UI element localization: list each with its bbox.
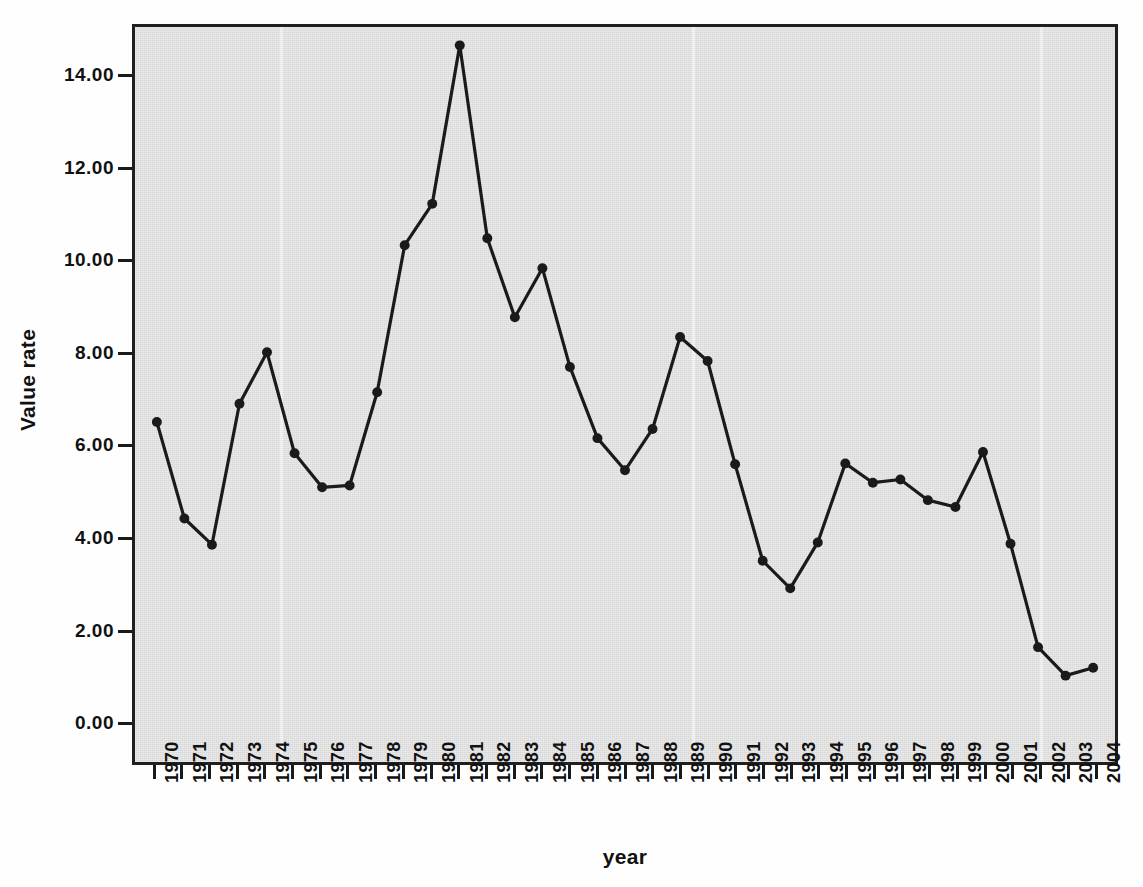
data-point-marker xyxy=(868,478,878,488)
x-tick-mark xyxy=(734,765,737,779)
data-point-marker xyxy=(427,199,437,209)
data-point-marker xyxy=(703,356,713,366)
y-tick-label: 0.00 xyxy=(4,712,114,734)
data-point-marker xyxy=(592,433,602,443)
x-tick-mark xyxy=(762,765,765,779)
x-tick-mark xyxy=(402,765,405,779)
data-point-marker xyxy=(675,332,685,342)
x-tick-mark xyxy=(679,765,682,779)
data-point-marker xyxy=(1061,671,1071,681)
x-tick-label: 1998 xyxy=(920,783,940,853)
x-tick-mark xyxy=(346,765,349,779)
data-point-marker xyxy=(400,240,410,250)
y-tick-label: 8.00 xyxy=(4,342,114,364)
x-tick-label: 1979 xyxy=(393,783,413,853)
data-point-marker xyxy=(152,417,162,427)
data-point-marker xyxy=(923,495,933,505)
data-point-marker xyxy=(565,362,575,372)
x-tick-label: 2000 xyxy=(975,783,995,853)
y-tick-mark xyxy=(118,630,132,633)
x-tick-mark xyxy=(624,765,627,779)
data-point-marker xyxy=(758,556,768,566)
x-tick-label: 1995 xyxy=(837,783,857,853)
x-tick-label: 1982 xyxy=(476,783,496,853)
y-tick-mark xyxy=(118,259,132,262)
x-tick-label: 1985 xyxy=(560,783,580,853)
x-tick-label: 1994 xyxy=(809,783,829,853)
x-tick-label: 1978 xyxy=(366,783,386,853)
data-point-marker xyxy=(648,424,658,434)
data-point-marker xyxy=(455,40,465,50)
x-tick-mark xyxy=(1067,765,1070,779)
x-tick-label: 1984 xyxy=(532,783,552,853)
x-tick-mark xyxy=(319,765,322,779)
data-point-marker xyxy=(179,514,189,524)
x-tick-mark xyxy=(707,765,710,779)
x-tick-label: 2003 xyxy=(1058,783,1078,853)
x-tick-label: 1972 xyxy=(199,783,219,853)
y-tick-mark xyxy=(118,74,132,77)
x-tick-label: 1983 xyxy=(504,783,524,853)
y-tick-label: 10.00 xyxy=(4,249,114,271)
x-tick-label: 1976 xyxy=(310,783,330,853)
x-tick-label: 1997 xyxy=(892,783,912,853)
x-tick-mark xyxy=(1011,765,1014,779)
y-tick-mark xyxy=(118,722,132,725)
y-tick-label: 12.00 xyxy=(4,157,114,179)
x-tick-label: 1971 xyxy=(172,783,192,853)
data-point-marker xyxy=(978,447,988,457)
x-tick-mark xyxy=(817,765,820,779)
x-tick-label: 1996 xyxy=(864,783,884,853)
data-point-marker xyxy=(345,480,355,490)
x-tick-mark xyxy=(236,765,239,779)
data-point-marker xyxy=(1033,642,1043,652)
x-tick-mark xyxy=(374,765,377,779)
data-point-marker xyxy=(207,540,217,550)
data-point-marker xyxy=(730,459,740,469)
x-tick-mark xyxy=(596,765,599,779)
y-tick-label: 4.00 xyxy=(4,527,114,549)
x-tick-mark xyxy=(485,765,488,779)
x-tick-label: 1975 xyxy=(283,783,303,853)
x-tick-label: 1999 xyxy=(947,783,967,853)
x-tick-label: 2001 xyxy=(1003,783,1023,853)
x-tick-mark xyxy=(845,765,848,779)
data-point-marker xyxy=(290,448,300,458)
data-point-marker xyxy=(317,482,327,492)
x-tick-label: 1980 xyxy=(421,783,441,853)
x-tick-mark xyxy=(153,765,156,779)
x-tick-label: 1986 xyxy=(587,783,607,853)
x-tick-label: 1981 xyxy=(449,783,469,853)
x-tick-label: 1987 xyxy=(615,783,635,853)
x-tick-label: 2002 xyxy=(1031,783,1051,853)
x-tick-label: 1977 xyxy=(338,783,358,853)
x-tick-mark xyxy=(208,765,211,779)
x-tick-label: 1992 xyxy=(754,783,774,853)
data-point-marker xyxy=(895,475,905,485)
x-tick-mark xyxy=(180,765,183,779)
x-tick-mark xyxy=(457,765,460,779)
x-tick-mark xyxy=(928,765,931,779)
plot-area xyxy=(132,24,1118,765)
data-point-marker xyxy=(482,233,492,243)
x-tick-mark xyxy=(1095,765,1098,779)
x-tick-mark xyxy=(291,765,294,779)
data-point-marker xyxy=(510,312,520,322)
x-tick-mark xyxy=(651,765,654,779)
x-tick-label: 1989 xyxy=(670,783,690,853)
data-point-marker xyxy=(785,583,795,593)
x-tick-label: 1993 xyxy=(781,783,801,853)
x-tick-label: 1970 xyxy=(144,783,164,853)
x-axis-ticks: 1970197119721973197419751976197719781979… xyxy=(0,765,1143,855)
data-point-marker xyxy=(1088,663,1098,673)
x-tick-label: 1990 xyxy=(698,783,718,853)
x-tick-mark xyxy=(263,765,266,779)
x-tick-label: 1974 xyxy=(255,783,275,853)
data-series-value-rate xyxy=(135,27,1115,762)
data-point-marker xyxy=(840,458,850,468)
data-point-marker xyxy=(620,465,630,475)
x-tick-mark xyxy=(873,765,876,779)
y-tick-mark xyxy=(118,537,132,540)
line-chart: Value rate 0.002.004.006.008.0010.0012.0… xyxy=(0,0,1143,887)
data-point-marker xyxy=(262,347,272,357)
